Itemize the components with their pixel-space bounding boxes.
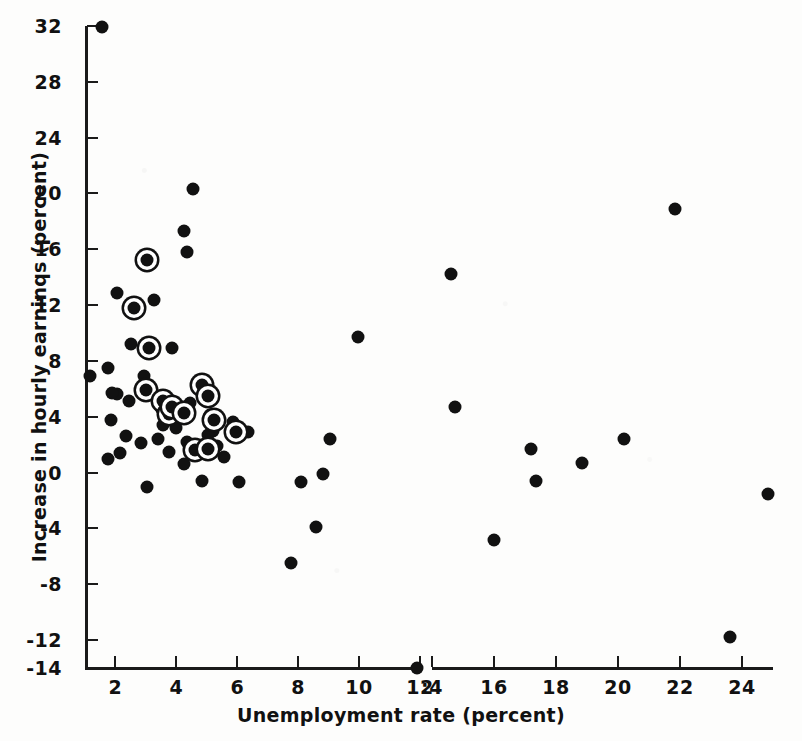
y-axis-line [85,26,88,670]
data-point [576,456,589,469]
data-point [187,183,200,196]
data-point-circled [127,301,140,314]
data-point [241,426,254,439]
data-point-circled [202,442,215,455]
x-tick-mark [358,656,360,667]
data-point [525,442,538,455]
data-point [170,421,183,434]
data-point [120,430,133,443]
data-point [114,447,127,460]
y-tick-mark [87,360,98,362]
data-point [316,468,329,481]
x-axis-line-left-segment [85,667,420,670]
data-point-circled [165,401,178,414]
data-point-circled [141,254,154,267]
x-axis-line-right-segment [432,667,773,670]
data-point [124,338,137,351]
data-point [284,557,297,570]
data-point [162,445,175,458]
x-tick-mark [297,656,299,667]
data-point [83,370,96,383]
y-tick-mark [87,192,98,194]
data-point [181,246,194,259]
data-point [152,433,165,446]
x-tick-mark [431,656,433,667]
x-tick-label: :4 [405,676,459,698]
x-tick-mark [175,656,177,667]
data-point [295,476,308,489]
data-point-circled [229,426,242,439]
data-point [723,631,736,644]
x-tick-label: 16 [467,676,521,698]
data-point [106,387,119,400]
data-point [177,225,190,238]
data-point-circled [208,413,221,426]
data-point-circled [177,406,190,419]
data-point [324,433,337,446]
scatter-plot-figure: 322824201612840-4-8-12-14 24681012:41618… [0,0,802,741]
data-point-circled [142,342,155,355]
x-tick-mark [741,656,743,667]
x-tick-label: 10 [332,676,386,698]
y-tick-mark [87,527,98,529]
x-tick-mark [679,656,681,667]
data-point [104,413,117,426]
data-point [529,474,542,487]
data-point-circled [188,444,201,457]
data-point [762,487,775,500]
y-axis-title: Increase in hourly earninqs (percent) [28,57,50,657]
data-point [147,293,160,306]
y-tick-mark [87,304,98,306]
x-tick-label: 6 [210,676,264,698]
data-point [310,521,323,534]
y-tick-mark [87,81,98,83]
y-tick-mark [87,583,98,585]
data-point [135,437,148,450]
data-point [410,662,423,675]
x-tick-label: 2 [88,676,142,698]
data-point [95,21,108,34]
x-tick-label: 8 [271,676,325,698]
y-tick-mark [87,416,98,418]
data-point-circled [202,389,215,402]
data-point [449,401,462,414]
y-tick-mark [87,667,98,669]
y-tick-mark [87,472,98,474]
data-point-circled [139,384,152,397]
x-tick-label: 20 [591,676,645,698]
data-point [488,533,501,546]
data-point [101,452,114,465]
x-tick-label: 18 [529,676,583,698]
x-tick-mark [236,656,238,667]
paper-texture [0,0,802,741]
data-point [138,370,151,383]
data-point [351,331,364,344]
data-point [177,458,190,471]
data-point [141,480,154,493]
x-tick-label: 4 [149,676,203,698]
data-point [202,428,215,441]
data-point [669,202,682,215]
data-point [618,433,631,446]
x-axis-title: Unemployment rate (percent) [0,704,802,726]
y-tick-mark [87,137,98,139]
y-tick-mark [87,248,98,250]
x-tick-label: 22 [653,676,707,698]
data-point [156,419,169,432]
data-point [444,268,457,281]
y-tick-label: 32 [16,15,62,37]
data-point [217,451,230,464]
data-point [196,474,209,487]
data-point [165,342,178,355]
data-point [123,395,136,408]
y-tick-mark [87,639,98,641]
data-point [101,361,114,374]
x-tick-mark [555,656,557,667]
x-tick-mark [493,656,495,667]
y-tick-label: -14 [16,657,62,679]
x-tick-label: 24 [715,676,769,698]
x-tick-mark [114,656,116,667]
data-point [232,476,245,489]
x-tick-mark [617,656,619,667]
data-point [110,286,123,299]
